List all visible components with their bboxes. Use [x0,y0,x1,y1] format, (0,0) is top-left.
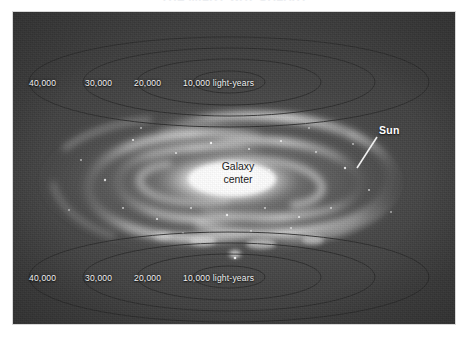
galaxy-figure-panel: 40,000 30,000 20,000 10,000 light-years … [13,12,455,324]
label-galaxy-center: Galaxy center [200,160,276,185]
scale-label-bottom-20000: 20,000 [134,273,161,283]
scale-label-bottom-30000: 30,000 [85,273,112,283]
scale-label-bottom-40000: 40,000 [29,273,56,283]
label-sun: Sun [379,124,400,136]
label-galaxy-center-line2: center [200,173,276,186]
scale-label-top-20000: 20,000 [134,78,161,88]
label-galaxy-center-line1: Galaxy [200,160,276,173]
figure-title: THE MILKY WAY GALAXY [0,0,469,3]
scale-label-top-40000: 40,000 [29,78,56,88]
scale-label-top-10000-light-years: 10,000 light-years [183,78,254,88]
scale-label-bottom-10000-light-years: 10,000 light-years [183,273,254,283]
scale-label-top-30000: 30,000 [85,78,112,88]
